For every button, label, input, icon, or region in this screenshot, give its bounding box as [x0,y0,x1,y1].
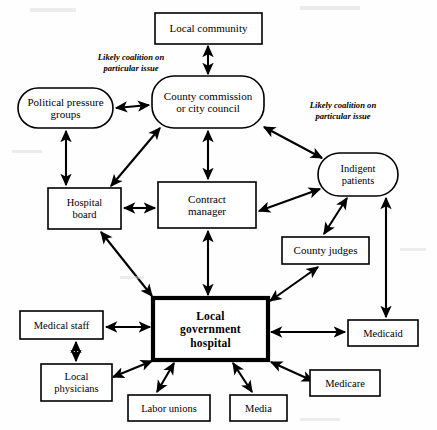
node-medicare[interactable]: Medicare [310,370,380,396]
node-county-judges[interactable]: County judges [282,237,369,264]
annot-right: Likely coalition onparticular issue [309,100,377,121]
node-local-government-hospital[interactable]: Localgovernmenthospital [153,298,268,360]
edge-hospital-medicare [271,362,313,381]
edge-contract-indigent [259,189,320,211]
node-medical-staff[interactable]: Medical staff [20,311,103,339]
node-medicaid[interactable]: Medicaid [348,320,418,346]
stakeholder-diagram: Local communityPolitical pressuregroupsC… [0,0,437,430]
edge-board-hospital [101,232,152,296]
node-local-physicians[interactable]: Localphysicians [41,364,112,401]
node-label-hospital-board: Hospital [67,197,103,208]
node-county-commission[interactable]: County commissionor city council [152,76,264,128]
node-hospital-board[interactable]: Hospitalboard [48,188,121,229]
annot-right-line: particular issue [314,111,370,121]
node-label-contract-manager: manager [188,205,226,217]
annot-left-line: particular issue [102,63,158,73]
node-indigent-patients[interactable]: Indigentpatients [318,153,398,196]
edge-pressure-commission [116,105,149,108]
node-label-indigent-patients: Indigent [341,163,376,174]
node-label-county-commission: County commission [164,90,253,102]
annot-left-line: Likely coalition on [97,52,165,62]
diagram-page: Local communityPolitical pressuregroupsC… [0,0,437,430]
node-label-contract-manager: Contract [188,193,226,205]
node-label-local-community: Local community [170,22,248,34]
node-label-hospital-board: board [73,209,98,220]
edge-hospital-media [233,363,252,392]
node-label-local-government-hospital: hospital [190,337,231,350]
node-label-local-government-hospital: government [180,323,241,336]
node-contract-manager[interactable]: Contractmanager [158,182,256,228]
node-political-pressure[interactable]: Political pressuregroups [18,88,113,128]
node-label-political-pressure: groups [51,108,81,120]
annot-left: Likely coalition onparticular issue [97,52,165,73]
node-label-county-judges: County judges [294,244,358,256]
edge-commission-board [111,128,160,186]
edge-hospital-physicians [113,361,152,377]
node-label-medicare: Medicare [325,378,365,389]
node-label-local-physicians: physicians [54,383,98,394]
edge-commission-indigent [264,127,322,158]
node-label-local-government-hospital: Local [196,310,224,322]
node-local-community[interactable]: Local community [155,13,262,44]
node-label-indigent-patients: patients [342,175,375,186]
node-label-medicaid: Medicaid [363,328,403,339]
node-layer: Local communityPolitical pressuregroupsC… [18,13,418,421]
edge-judges-hospital [270,267,318,301]
node-media[interactable]: Media [230,395,287,421]
annot-right-line: Likely coalition on [309,100,377,110]
node-label-county-commission: or city council [176,102,240,114]
node-label-political-pressure: Political pressure [27,96,103,108]
node-label-labor-unions: Labor unions [141,403,197,414]
node-labor-unions[interactable]: Labor unions [128,395,210,421]
node-label-local-physicians: Local [65,371,89,382]
edge-indigent-judges [324,198,347,234]
node-label-medical-staff: Medical staff [34,320,90,331]
edge-hospital-labor [157,363,174,392]
node-label-media: Media [245,403,272,414]
